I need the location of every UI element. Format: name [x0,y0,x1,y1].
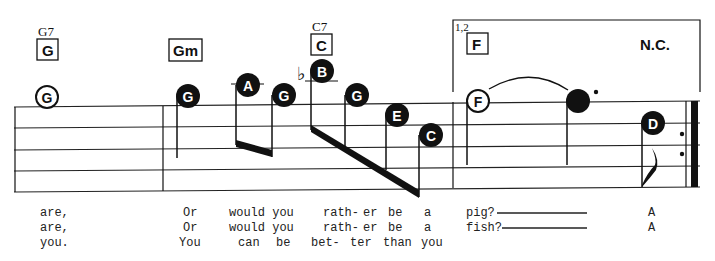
bar-lines [15,101,698,192]
svg-text:G: G [42,90,53,106]
svg-text:A: A [648,206,656,220]
svg-text:a: a [424,221,431,235]
beamed-eighths-bb-g-e-c: ♭ B G E C [297,59,443,198]
svg-text:G: G [279,88,290,104]
svg-text:ter: ter [350,236,372,250]
chord-alt-label: C7 [312,19,328,34]
chord-alt-label: G7 [38,24,54,39]
svg-text:A: A [243,78,253,94]
svg-text:bet-: bet- [311,236,340,250]
svg-text:Or: Or [183,206,197,220]
svg-text:be: be [388,221,402,235]
staff [14,101,700,192]
chord-label: G [42,42,54,59]
svg-text:be: be [276,236,290,250]
beamed-eighths-a-g: A G [231,73,296,157]
svg-text:Or: Or [183,221,197,235]
chord-symbol-gm: Gm [169,39,202,61]
no-chord-label: N.C. [640,36,670,53]
svg-text:a: a [424,206,431,220]
svg-text:G: G [352,88,363,104]
chord-label: Gm [173,42,198,59]
svg-text:A: A [648,221,656,235]
svg-text:B: B [317,64,327,80]
svg-text:are,: are, [40,221,69,235]
svg-text:would you: would you [229,221,294,235]
svg-text:you.: you. [40,236,69,250]
note-d-eighth: D [641,111,665,187]
flat-icon: ♭ [297,63,306,84]
chord-label: C [316,37,327,54]
svg-text:C: C [426,128,436,144]
svg-text:er: er [363,221,377,235]
svg-text:are,: are, [40,206,69,220]
svg-text:F: F [474,94,483,110]
note-dotted-quarter [566,89,598,165]
svg-text:would you: would you [229,206,294,220]
chord-symbol-c7: C7 C [311,19,332,55]
svg-text:You: You [179,236,201,250]
note-g-whole: G [36,86,58,108]
svg-text:D: D [648,116,658,132]
lyrics-verse-3: you. You can be bet- ter than you [40,236,443,250]
svg-text:than: than [383,236,412,250]
svg-text:rath-: rath- [323,206,359,220]
svg-text:fish?: fish? [466,221,502,235]
svg-text:E: E [392,108,401,124]
svg-text:pig?: pig? [466,206,495,220]
svg-text:you: you [421,236,443,250]
svg-text:rath-: rath- [323,221,359,235]
svg-text:er: er [363,206,377,220]
note-g-quarter: G [176,84,200,158]
svg-text:can: can [238,236,260,250]
note-f-half-tied: F [467,77,568,165]
chord-symbol-f: F [467,33,488,54]
lyrics-verse-2: are, Or would you rath- er be a fish? A [40,221,656,235]
lyrics-verse-1: are, Or would you rath- er be a pig? A [40,206,656,220]
chord-symbol-g7: G7 G [37,24,58,60]
svg-text:be: be [388,206,402,220]
svg-text:G: G [183,89,194,105]
ending-number: 1,2 [455,21,469,33]
sheet-music: G7 G Gm C7 C F 1,2 N.C. [0,0,715,261]
chord-label: F [472,36,481,53]
ending-bracket: 1,2 [453,20,700,92]
